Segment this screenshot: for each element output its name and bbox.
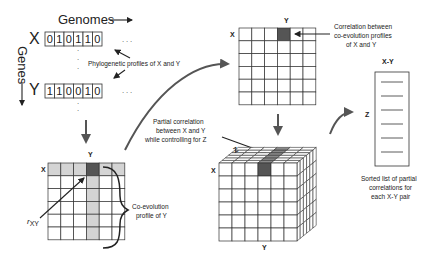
cube-front-cell — [232, 202, 245, 215]
matrix-cell — [99, 201, 112, 214]
matrix-cell — [277, 66, 290, 79]
profile-bit: 0 — [94, 33, 100, 45]
coevolution-diagram: Genomes Genes X 010110 · · · Y 110010 · … — [0, 0, 440, 262]
cube-front-cell — [219, 176, 232, 189]
genes-label: Genes — [15, 46, 30, 85]
vertical-dots: · — [77, 100, 79, 107]
cube-front-cell — [284, 202, 297, 215]
genomes-label: Genomes — [58, 12, 115, 27]
cube-front-cell — [245, 202, 258, 215]
coevolution-label-line2: profile of Y — [136, 212, 168, 220]
cube-front-cell — [219, 228, 232, 241]
cube-front-cell — [271, 202, 284, 215]
matrix-cell — [252, 66, 265, 79]
matrix-cell — [290, 66, 303, 79]
coevolution-label-line1: Co-evolution — [132, 203, 169, 210]
curved-arrow-icon — [330, 112, 352, 134]
y-gene-label: Y — [29, 81, 40, 98]
correlation-matrix — [239, 28, 316, 105]
vertical-dots: · — [77, 56, 79, 63]
corr-x-label: X — [230, 31, 235, 38]
profile-bit: 1 — [56, 33, 62, 45]
phylogenetic-profiles-label: Phylogenetic profiles of X and Y — [88, 60, 181, 68]
matrix-cell — [277, 28, 290, 41]
profile-bit: 0 — [66, 85, 72, 97]
vertical-dots: · — [77, 65, 79, 72]
cube-front-cell — [245, 228, 258, 241]
corr-label-line1: Correlation between — [334, 23, 393, 30]
matrix-cell — [48, 201, 61, 214]
matrix-cell — [74, 163, 87, 176]
matrix-cell — [303, 54, 316, 67]
y-profile-dots: · · · — [122, 89, 132, 96]
matrix-cell — [303, 79, 316, 92]
matrix-cell — [303, 41, 316, 54]
cube-front-cell — [271, 228, 284, 241]
matrix-cell — [99, 163, 112, 176]
cube-front-cell — [271, 215, 284, 228]
cube-side-cell — [307, 218, 310, 234]
matrix-cell — [112, 201, 125, 214]
x-phylogenetic-profile: 010110 — [45, 32, 102, 46]
cube-side-cell — [300, 223, 303, 239]
partial-label-line1: Partial correlation — [153, 118, 204, 125]
list-title: X-Y — [382, 58, 394, 65]
grid-y-label: Y — [88, 151, 93, 158]
partial-correlation-cube — [219, 147, 316, 241]
matrix-cell — [61, 201, 74, 214]
matrix-cell — [290, 92, 303, 105]
matrix-cell — [277, 92, 290, 105]
rxy-label: rXY — [27, 217, 39, 227]
cube-front-cell — [284, 176, 297, 189]
cube-front-cell — [245, 189, 258, 202]
profile-bit: 1 — [85, 33, 91, 45]
matrix-cell — [252, 54, 265, 67]
sorted-label-line3: each X-Y pair — [371, 193, 411, 201]
matrix-cell — [239, 79, 252, 92]
sorted-list — [375, 72, 409, 166]
corr-y-label: Y — [284, 17, 289, 24]
matrix-cell — [48, 163, 61, 176]
matrix-cell — [86, 189, 99, 202]
matrix-cell — [112, 189, 125, 202]
matrix-cell — [239, 28, 252, 41]
matrix-cell — [265, 79, 278, 92]
y-phylogenetic-profile: 110010 — [45, 84, 102, 98]
vertical-dots: · — [77, 107, 79, 114]
cube-side-cell — [313, 212, 316, 228]
sorted-label-line2: correlations for — [369, 184, 413, 191]
profile-bit: 1 — [56, 85, 62, 97]
matrix-cell — [290, 41, 303, 54]
profile-bit: 1 — [75, 33, 81, 45]
cube-y-label: Y — [262, 244, 267, 251]
cube-front-cell — [284, 228, 297, 241]
cube-front-cell — [219, 189, 232, 202]
cube-front-cell — [232, 189, 245, 202]
pointer-arrow-icon — [115, 50, 130, 58]
profile-bit: 0 — [75, 85, 81, 97]
x-profile-dots: · · · — [122, 38, 132, 45]
grid-x-label: X — [41, 166, 46, 173]
matrix-cell — [112, 214, 125, 227]
matrix-cell — [61, 189, 74, 202]
cube-front-cell — [284, 163, 297, 176]
matrix-cell — [86, 176, 99, 189]
matrix-cell — [61, 214, 74, 227]
cube-front-cell — [232, 163, 245, 176]
cube-front-cell — [271, 176, 284, 189]
cube-front-cell — [258, 176, 271, 189]
matrix-cell — [74, 201, 87, 214]
matrix-cell — [252, 28, 265, 41]
corr-label-line3: of X and Y — [346, 41, 377, 48]
profile-bit: 0 — [94, 85, 100, 97]
matrix-cell — [61, 227, 74, 240]
cube-front-cell — [258, 189, 271, 202]
matrix-cell — [252, 41, 265, 54]
matrix-cell — [61, 176, 74, 189]
list-z-label: Z — [365, 111, 370, 118]
matrix-cell — [239, 66, 252, 79]
matrix-cell — [265, 92, 278, 105]
cube-front-cell — [271, 163, 284, 176]
cube-front-cell — [258, 215, 271, 228]
matrix-cell — [277, 79, 290, 92]
